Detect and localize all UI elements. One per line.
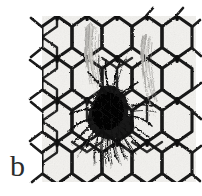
figure-panel: b [0, 0, 202, 196]
panel-label-b: b [10, 148, 38, 184]
scan-grain-overlay [42, 16, 196, 182]
